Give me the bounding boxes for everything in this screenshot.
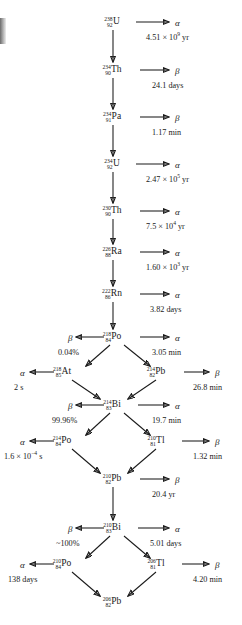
nuclide-pb214: 21482Pb <box>147 366 166 378</box>
decay-mode-m-tl206: β <box>215 561 219 570</box>
element-symbol: Bi <box>112 400 121 410</box>
element-symbol: Po <box>61 559 71 569</box>
element-symbol: U <box>113 159 120 169</box>
mass-number: 234 <box>104 158 112 164</box>
decay-arrow <box>128 380 156 399</box>
caption-c-bi210-a: 5.01 days <box>150 540 181 548</box>
nuclide-u238: 23892U <box>104 16 120 28</box>
atomic-number: 90 <box>102 70 110 76</box>
mass-number: 206 <box>103 596 111 602</box>
decay-mode-m-po218-a: α <box>175 334 180 343</box>
nuclide-indices: 22688 <box>102 246 110 258</box>
atomic-number: 90 <box>102 211 110 217</box>
nuclide-indices: 23492 <box>104 158 112 170</box>
atomic-number: 84 <box>103 337 111 343</box>
atomic-number: 82 <box>147 372 155 378</box>
mass-number: 210 <box>103 473 111 479</box>
mass-number: 226 <box>102 246 110 252</box>
caption-c-u234: 2.47 × 105 yr <box>146 176 189 184</box>
element-symbol: Ra <box>111 247 122 257</box>
caption-c-tl206: 4.20 min <box>193 576 222 584</box>
nuclide-indices: 21083 <box>103 522 111 534</box>
decay-arrow <box>86 345 110 366</box>
element-symbol: Po <box>111 332 121 342</box>
decay-arrow <box>124 536 150 558</box>
nuclide-at218: 21885At <box>53 366 71 378</box>
nuclide-indices: 21081 <box>147 435 155 447</box>
nuclide-pb206: 20682Pb <box>103 596 122 608</box>
nuclide-tl210: 21081Tl <box>147 435 164 447</box>
element-symbol: Th <box>111 206 122 216</box>
mass-number: 214 <box>103 399 111 405</box>
caption-c-rn222: 3.82 days <box>150 306 181 314</box>
nuclide-indices: 23491 <box>103 111 111 123</box>
nuclide-po214: 21484Po <box>53 435 72 447</box>
mass-number: 234 <box>103 111 111 117</box>
nuclide-po210: 21084Po <box>53 558 72 570</box>
element-symbol: Pb <box>155 367 165 377</box>
element-symbol: Rn <box>111 289 122 299</box>
mass-number: 214 <box>53 435 61 441</box>
decay-mode-m-bi210-a: α <box>175 525 180 534</box>
element-symbol: Tl <box>156 559 164 569</box>
decay-series-diagram: 23892U23490Th23491Pa23492U23090Th22688Ra… <box>0 0 242 625</box>
nuclide-indices: 20682 <box>103 596 111 608</box>
mass-number: 230 <box>102 205 110 211</box>
nuclide-indices: 20681 <box>147 558 155 570</box>
nuclide-indices: 22286 <box>102 288 110 300</box>
atomic-number: 85 <box>53 372 61 378</box>
mass-number: 238 <box>104 16 112 22</box>
nuclide-indices: 21884 <box>103 331 111 343</box>
mass-number: 210 <box>53 558 61 564</box>
decay-mode-m-bi214-b: β <box>68 402 72 411</box>
nuclide-pb210: 21082Pb <box>103 473 122 485</box>
atomic-number: 86 <box>102 294 110 300</box>
caption-c-u238: 4.51 × 109 yr <box>146 34 189 42</box>
nuclide-bi210: 21083Bi <box>103 522 121 534</box>
atomic-number: 83 <box>103 528 111 534</box>
decay-mode-m-po218-b: β <box>68 334 72 343</box>
mass-number: 206 <box>147 558 155 564</box>
caption-c-po214: 1.6 × 10−4 s <box>4 453 42 461</box>
decay-mode-m-pb210: β <box>175 476 179 485</box>
decay-mode-m-th234: β <box>175 67 179 76</box>
nuclide-po218: 21884Po <box>103 331 122 343</box>
decay-arrow <box>72 572 100 596</box>
mass-number: 234 <box>102 64 110 70</box>
caption-c-po210: 138 days <box>8 576 37 584</box>
nuclide-indices: 21483 <box>103 399 111 411</box>
decay-mode-m-pa234: β <box>175 114 179 123</box>
decay-arrow <box>72 449 100 473</box>
caption-c-th230: 7.5 × 104 yr <box>146 223 185 231</box>
atomic-number: 92 <box>104 22 112 28</box>
decay-mode-m-tl210: β <box>215 438 219 447</box>
atomic-number: 82 <box>103 479 111 485</box>
atomic-number: 84 <box>53 441 61 447</box>
decay-mode-m-rn222: α <box>175 291 180 300</box>
decay-mode-m-bi214-a: α <box>175 402 180 411</box>
arrow-group <box>30 22 209 596</box>
nuclide-indices: 21484 <box>53 435 61 447</box>
caption-c-po218-a: 3.05 min <box>152 349 181 357</box>
nuclide-th234: 23490Th <box>102 64 121 76</box>
caption-c-po218-b: 0.04% <box>58 349 79 357</box>
nuclide-rn222: 22286Rn <box>102 288 122 300</box>
mass-number: 210 <box>103 522 111 528</box>
nuclide-indices: 23490 <box>102 64 110 76</box>
decay-arrow <box>124 345 150 366</box>
element-symbol: Th <box>111 65 122 75</box>
nuclide-ra226: 22688Ra <box>102 246 121 258</box>
decay-mode-m-po210: α <box>20 561 25 570</box>
element-symbol: Pb <box>111 597 121 607</box>
caption-c-at218: 2 s <box>14 384 23 392</box>
atomic-number: 83 <box>103 405 111 411</box>
element-symbol: Bi <box>112 523 121 533</box>
atomic-number: 82 <box>103 602 111 608</box>
caption-c-bi214-a: 19.7 min <box>152 417 181 425</box>
nuclide-indices: 21082 <box>103 473 111 485</box>
caption-c-th234: 24.1 days <box>152 82 183 90</box>
atomic-number: 81 <box>147 441 155 447</box>
mass-number: 218 <box>103 331 111 337</box>
nuclide-indices: 21084 <box>53 558 61 570</box>
nuclide-indices: 21885 <box>53 366 61 378</box>
